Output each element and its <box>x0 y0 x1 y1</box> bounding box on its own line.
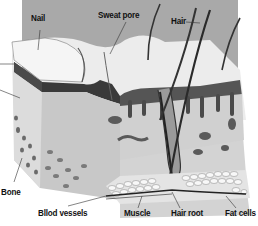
label-bone: Bone <box>1 187 21 197</box>
label-fat-cells: Fat cells <box>225 208 256 218</box>
label-hair-root: Hair root <box>171 208 203 218</box>
label-sweat-pore: Sweat pore <box>98 10 139 20</box>
skin-diagram: Nail Sweat pore Hair Bone Bllod vessels … <box>0 0 258 226</box>
label-hair: Hair <box>171 16 186 26</box>
skin-cross-section-illustration <box>0 0 258 226</box>
label-muscle: Muscle <box>124 208 150 218</box>
label-blood-vessels: Bllod vessels <box>38 208 87 218</box>
label-nail: Nail <box>31 13 45 23</box>
